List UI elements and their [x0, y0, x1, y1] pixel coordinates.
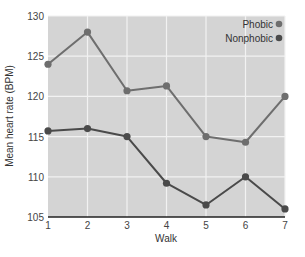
y-tick-label: 115 — [28, 132, 44, 143]
data-point — [84, 125, 91, 132]
y-tick-label: 105 — [27, 212, 44, 223]
data-point — [281, 93, 288, 100]
y-tick-label: 125 — [27, 51, 44, 62]
data-point — [123, 87, 130, 94]
x-axis-ticks: 1234567 — [45, 220, 288, 231]
y-tick-label: 120 — [27, 91, 44, 102]
x-tick-label: 5 — [203, 220, 209, 231]
x-tick-label: 4 — [164, 220, 170, 231]
legend-label: Nonphobic — [225, 33, 273, 44]
data-point — [202, 201, 209, 208]
y-axis-ticks: 105110115120125130 — [27, 11, 44, 223]
data-point — [163, 82, 170, 89]
x-tick-label: 1 — [45, 220, 51, 231]
data-point — [84, 28, 91, 35]
x-axis-label: Walk — [155, 233, 178, 244]
x-tick-label: 2 — [85, 220, 91, 231]
data-point — [202, 133, 209, 140]
x-tick-label: 3 — [124, 220, 130, 231]
data-point — [281, 205, 288, 212]
data-point — [44, 127, 51, 134]
legend-marker-icon — [276, 21, 283, 28]
y-tick-label: 130 — [27, 11, 44, 22]
y-axis-label: Mean heart rate (BPM) — [4, 65, 15, 167]
y-tick-label: 110 — [28, 172, 44, 183]
legend-marker-icon — [276, 35, 283, 42]
x-tick-label: 7 — [282, 220, 288, 231]
line-chart: 105110115120125130 1234567 Mean heart ra… — [0, 0, 305, 257]
data-point — [163, 180, 170, 187]
legend-label: Phobic — [242, 19, 273, 30]
data-point — [242, 173, 249, 180]
data-point — [123, 133, 130, 140]
x-tick-label: 6 — [243, 220, 249, 231]
data-point — [44, 61, 51, 68]
data-point — [242, 139, 249, 146]
